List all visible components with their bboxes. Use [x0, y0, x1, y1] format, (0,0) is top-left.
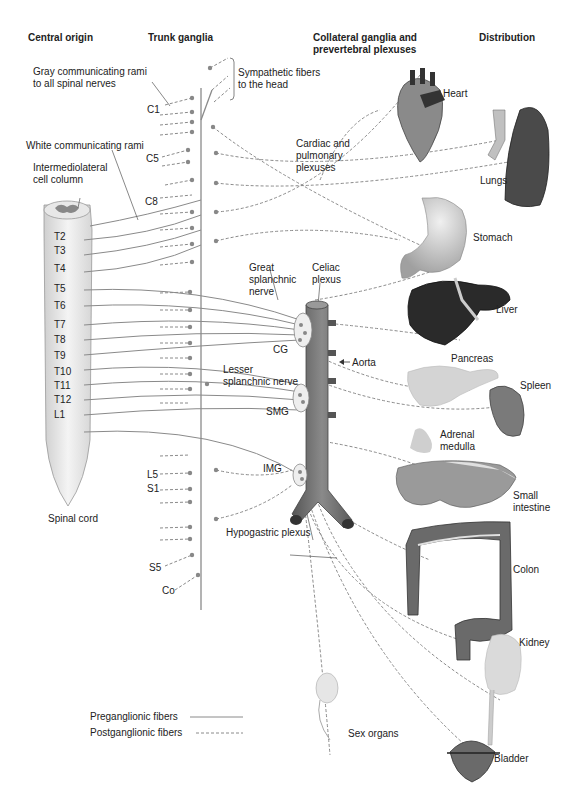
label-smg: SMG	[266, 406, 289, 418]
label-iml-1: Intermediolateral	[33, 162, 107, 174]
liver-shape	[408, 278, 510, 345]
pancreas-shape	[408, 366, 499, 406]
label-cardiac-3: plexuses	[296, 162, 335, 174]
organ-pancreas-label: Pancreas	[451, 353, 493, 365]
organ-small-intestine-label-2: intestine	[513, 502, 550, 514]
segment-t6: T6	[54, 300, 66, 312]
segment-l5: L5	[147, 469, 158, 481]
label-symp-head-2: to the head	[238, 79, 288, 91]
label-cardiac-2: pulmonary	[296, 150, 343, 162]
label-lesser-2: splanchnic nerve	[223, 376, 298, 388]
bladder-shape	[447, 741, 500, 782]
small-intestine-shape	[396, 461, 518, 508]
preganglionic-fibers	[84, 200, 300, 475]
label-iml-2: cell column	[33, 174, 83, 186]
segment-c1: C1	[147, 104, 160, 116]
label-cg: CG	[273, 344, 288, 356]
spinal-cord	[44, 201, 92, 506]
organ-spleen-label: Spleen	[520, 380, 551, 392]
segment-t5: T5	[54, 283, 66, 295]
organ-heart-label: Heart	[443, 88, 467, 100]
label-celiac-2: plexus	[312, 274, 341, 286]
segment-t8: T8	[54, 334, 66, 346]
segment-t9: T9	[54, 350, 66, 362]
label-white-rami: White communicating rami	[26, 140, 144, 152]
label-symp-head-1: Sympathetic fibers	[238, 67, 320, 79]
label-gray-rami-1: Gray communicating rami	[33, 66, 147, 78]
label-lesser-1: Lesser	[223, 364, 253, 376]
segment-t2: T2	[54, 231, 66, 243]
ans-diagram	[0, 0, 580, 795]
segment-c8: C8	[145, 196, 158, 208]
segment-t4: T4	[54, 263, 66, 275]
adrenal-shape	[410, 428, 432, 453]
sex-organs-shape	[316, 673, 338, 740]
sympathetic-trunk	[201, 88, 212, 610]
stomach-shape	[401, 198, 467, 279]
organ-sex-organs-label: Sex organs	[348, 728, 399, 740]
label-gray-rami-2: to all spinal nerves	[33, 78, 116, 90]
organ-adrenal-label-1: Adrenal	[440, 429, 474, 441]
heart-shape	[398, 68, 445, 162]
label-great-3: nerve	[249, 286, 274, 298]
kidney-shape	[485, 634, 521, 745]
segment-s5: S5	[149, 562, 161, 574]
label-img: IMG	[263, 463, 282, 475]
segment-co: Co	[162, 585, 175, 597]
organ-bladder-label: Bladder	[494, 753, 528, 765]
legend-postganglionic: Postganglionic fibers	[90, 727, 182, 739]
segment-c5: C5	[146, 153, 159, 165]
legend-preganglionic: Preganglionic fibers	[90, 711, 178, 723]
label-spinal-cord: Spinal cord	[48, 513, 98, 525]
segment-t7: T7	[54, 319, 66, 331]
organ-kidney-label: Kidney	[519, 637, 550, 649]
organ-colon-label: Colon	[513, 564, 539, 576]
label-great-2: splanchnic	[249, 274, 296, 286]
organ-lungs-label: Lungs	[480, 175, 507, 187]
label-great-1: Great	[249, 262, 274, 274]
spleen-shape	[490, 386, 524, 436]
organ-small-intestine-label-1: Small	[513, 490, 538, 502]
segment-t10: T10	[54, 366, 71, 378]
segment-t11: T11	[54, 380, 71, 392]
segment-t12: T12	[54, 394, 71, 406]
lungs-shape	[488, 108, 549, 207]
segment-s1: S1	[147, 483, 159, 495]
label-aorta: Aorta	[352, 357, 376, 369]
organ-liver-label: Liver	[496, 304, 518, 316]
segment-t3: T3	[54, 245, 66, 257]
label-hypogastric: Hypogastric plexus	[226, 527, 310, 539]
segment-l1: L1	[54, 409, 65, 421]
label-celiac-1: Celiac	[312, 262, 340, 274]
organ-stomach-label: Stomach	[473, 232, 512, 244]
organ-adrenal-label-2: medulla	[440, 441, 475, 453]
label-cardiac-1: Cardiac and	[296, 138, 350, 150]
